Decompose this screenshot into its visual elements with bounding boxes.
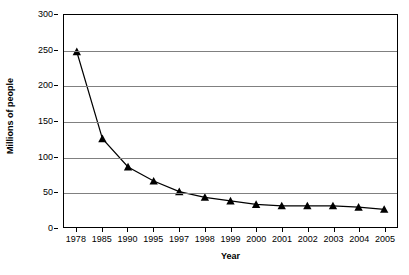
gridline <box>64 86 397 87</box>
x-axis-tick-mark <box>102 228 103 232</box>
x-axis-tick-label: 2004 <box>349 234 369 244</box>
x-axis-tick-label: 1998 <box>195 234 215 244</box>
x-axis-title: Year <box>63 251 398 261</box>
data-series-line <box>64 15 397 227</box>
x-axis-tick-label: 1995 <box>143 234 163 244</box>
y-axis-tick-label: 100 <box>38 152 53 161</box>
y-axis-tick-mark <box>54 50 58 51</box>
gridline <box>64 122 397 123</box>
x-axis-tick-mark <box>205 228 206 232</box>
chart-container: Millions of people 050100150200250300 19… <box>0 0 409 275</box>
x-axis-tick-mark <box>282 228 283 232</box>
x-axis-tick-mark <box>308 228 309 232</box>
x-axis-tick-mark <box>127 228 128 232</box>
y-axis-tick-label: 300 <box>38 10 53 19</box>
data-point-marker <box>149 177 157 185</box>
series-polyline <box>77 52 384 210</box>
y-axis-tick-label: 0 <box>48 224 53 233</box>
x-axis-tick-label: 2002 <box>298 234 318 244</box>
data-point-marker <box>175 188 183 196</box>
y-axis-tick-mark <box>54 85 58 86</box>
x-axis-tick-label: 1997 <box>169 234 189 244</box>
y-axis-tick-mark <box>54 121 58 122</box>
x-axis-tick-label: 2000 <box>246 234 266 244</box>
y-axis-tick-mark <box>54 192 58 193</box>
x-axis-tick-label: 2005 <box>375 234 395 244</box>
x-axis-tick-mark <box>76 228 77 232</box>
y-axis-tick-label: 150 <box>38 117 53 126</box>
x-axis-tick-label: 2003 <box>324 234 344 244</box>
gridline <box>64 158 397 159</box>
gridline <box>64 51 397 52</box>
y-axis-title: Millions of people <box>2 0 18 232</box>
x-axis-tick-marks <box>63 228 398 233</box>
plot-area <box>63 14 398 228</box>
x-axis-tick-mark <box>334 228 335 232</box>
gridline <box>64 193 397 194</box>
y-axis-tick-mark <box>54 14 58 15</box>
y-axis-tick-label: 200 <box>38 81 53 90</box>
y-axis-title-label: Millions of people <box>5 78 15 154</box>
x-axis-tick-mark <box>256 228 257 232</box>
y-axis-tick-label: 250 <box>38 45 53 54</box>
x-axis-tick-mark <box>231 228 232 232</box>
x-axis-tick-labels: 1978198519901995199719981999200020012002… <box>0 234 409 246</box>
x-axis-tick-label: 1978 <box>66 234 86 244</box>
x-axis-tick-mark <box>385 228 386 232</box>
y-axis-tick-mark <box>54 228 58 229</box>
x-axis-tick-mark <box>359 228 360 232</box>
x-axis-tick-label: 1990 <box>117 234 137 244</box>
data-point-marker <box>98 135 106 143</box>
x-axis-tick-label: 1985 <box>92 234 112 244</box>
y-axis-tick-mark <box>54 157 58 158</box>
y-axis-tick-labels: 050100150200250300 <box>20 0 58 232</box>
y-axis-tick-label: 50 <box>43 188 53 197</box>
x-axis-tick-label: 2001 <box>272 234 292 244</box>
x-axis-tick-mark <box>153 228 154 232</box>
x-axis-tick-label: 1999 <box>220 234 240 244</box>
x-axis-tick-mark <box>179 228 180 232</box>
